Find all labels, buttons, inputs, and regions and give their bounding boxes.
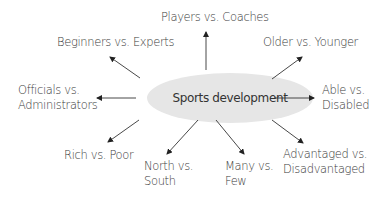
node-line: Administrators [18, 98, 98, 113]
node-line: Able vs. [322, 83, 369, 98]
node-players-coaches: Players vs. Coaches [161, 10, 269, 25]
node-line: Older vs. Younger [263, 35, 358, 50]
sports-development-diagram: Sports development Players vs. Coaches B… [0, 0, 382, 197]
arrow-up-left [110, 57, 140, 78]
node-advantaged-disadvantaged: Advantaged vs. Disadvantaged [283, 147, 367, 177]
arrow-down-right-advantaged [272, 120, 303, 143]
node-line: South [144, 174, 193, 189]
node-line: Rich vs. Poor [64, 148, 133, 163]
node-line: North vs. [144, 159, 193, 174]
node-line: Officials vs. [18, 83, 98, 98]
node-line: Disadvantaged [283, 162, 367, 177]
node-line: Few [225, 174, 273, 189]
node-able-disabled: Able vs. Disabled [322, 83, 369, 113]
node-older-younger: Older vs. Younger [263, 35, 358, 50]
node-beginners-experts: Beginners vs. Experts [57, 35, 174, 50]
node-line: Players vs. Coaches [161, 10, 269, 25]
arrow-down-left-rich [108, 120, 139, 142]
node-north-south: North vs. South [144, 159, 193, 189]
node-line: Beginners vs. Experts [57, 35, 174, 50]
node-line: Many vs. [225, 159, 273, 174]
node-many-few: Many vs. Few [225, 159, 273, 189]
node-rich-poor: Rich vs. Poor [64, 148, 133, 163]
arrow-up-right [272, 57, 302, 79]
node-officials-administrators: Officials vs. Administrators [18, 83, 98, 113]
arrow-down-left-north [167, 120, 198, 154]
node-line: Disabled [322, 98, 369, 113]
node-line: Advantaged vs. [283, 147, 367, 162]
arrow-down-right-many [216, 120, 244, 154]
center-label: Sports development [147, 91, 313, 106]
